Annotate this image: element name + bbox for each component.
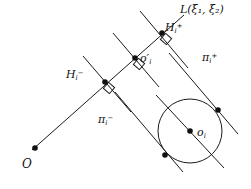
label-projection-o-prime: o′i xyxy=(140,53,151,66)
label-pi-plus: πi+ xyxy=(202,52,217,65)
label-pi-minus: πi− xyxy=(98,114,113,127)
figure-canvas xyxy=(0,0,251,189)
point-circle-center-oi xyxy=(187,128,193,134)
label-hyperplane-minus: Hi− xyxy=(66,69,84,82)
point-tangent-upper xyxy=(215,107,221,113)
point-hyperplane-plus xyxy=(159,30,165,36)
label-line-L: L(ξ₁, ξ₂) xyxy=(180,4,224,15)
point-origin-O xyxy=(32,145,38,151)
tangent-upper-line xyxy=(169,53,238,134)
geometry-figure: L(ξ₁, ξ₂) Hi+ Hi− o′i πi+ πi− oi O xyxy=(0,0,251,189)
label-hyperplane-plus: Hi+ xyxy=(165,22,183,35)
label-origin-O: O xyxy=(22,158,32,170)
label-circle-center-oi: oi xyxy=(197,127,206,140)
point-projection-o-prime xyxy=(132,55,138,61)
point-hyperplane-minus xyxy=(102,79,108,85)
point-tangent-lower xyxy=(162,152,168,158)
